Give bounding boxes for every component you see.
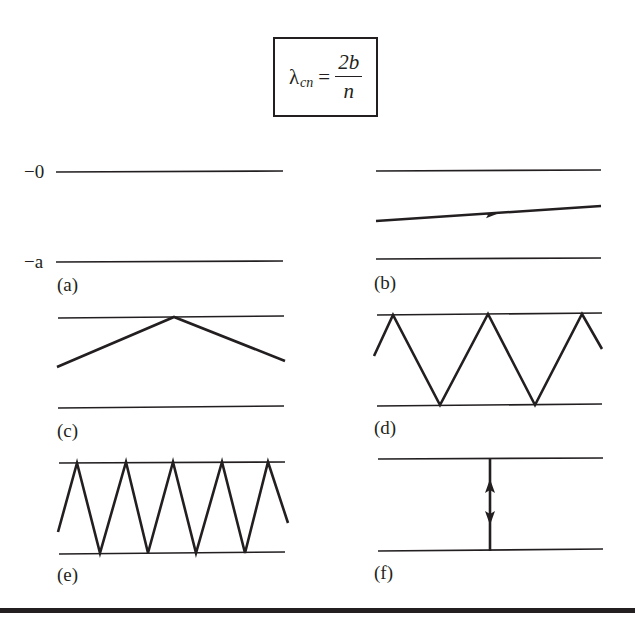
wall-bottom-line bbox=[56, 261, 283, 262]
arrow-right-icon bbox=[484, 213, 500, 219]
bottom-rule bbox=[0, 608, 635, 613]
wall-bottom-line bbox=[377, 404, 602, 406]
ray-line bbox=[57, 317, 285, 367]
panel-b bbox=[376, 170, 601, 259]
ray-line bbox=[374, 314, 602, 405]
wall-bottom-line bbox=[376, 258, 601, 259]
wall-bottom-line bbox=[58, 406, 284, 408]
wall-top-line bbox=[378, 458, 603, 459]
panel-f bbox=[378, 458, 603, 551]
panel-e bbox=[58, 462, 288, 554]
wall-top-line bbox=[56, 171, 283, 172]
wall-top-line bbox=[376, 170, 601, 171]
waveguide-diagram bbox=[0, 0, 635, 617]
panel-c bbox=[57, 316, 285, 408]
ray-line bbox=[58, 462, 288, 553]
panel-a bbox=[56, 171, 283, 262]
panel-d bbox=[374, 313, 602, 406]
wall-bottom-line bbox=[59, 552, 285, 554]
